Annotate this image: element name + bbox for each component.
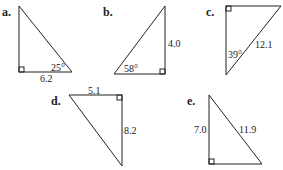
label-e: e. [187, 94, 195, 108]
side-c: 12.1 [255, 39, 273, 50]
triangle-e: e. 7.0 11.9 [187, 94, 262, 164]
triangle-d: d. 5.1 8.2 [51, 85, 137, 166]
triangle-a: a. 25° 6.2 [2, 5, 72, 84]
side-d-top: 5.1 [88, 85, 101, 96]
triangle-c: c. 39° 12.1 [206, 5, 281, 75]
right-angle-icon [19, 67, 24, 72]
label-c: c. [206, 5, 214, 19]
label-a: a. [2, 5, 11, 19]
side-e-hyp: 11.9 [239, 124, 256, 135]
angle-a: 25° [51, 62, 65, 73]
label-b: b. [103, 5, 113, 19]
right-angle-icon [226, 6, 231, 11]
right-angle-icon [117, 95, 122, 100]
side-d-right: 8.2 [124, 125, 137, 136]
right-angle-icon [160, 69, 165, 74]
angle-b: 58° [124, 63, 138, 74]
right-angle-icon [209, 159, 214, 164]
right-triangles-diagram: a. 25° 6.2 b. 58° 4.0 c. 39° 12.1 d. 5.1… [0, 0, 283, 170]
side-a: 6.2 [40, 73, 53, 84]
label-d: d. [51, 94, 61, 108]
triangle-b: b. 58° 4.0 [103, 5, 181, 74]
side-e-left: 7.0 [194, 124, 207, 135]
angle-c: 39° [228, 49, 242, 60]
side-b: 4.0 [168, 38, 181, 49]
